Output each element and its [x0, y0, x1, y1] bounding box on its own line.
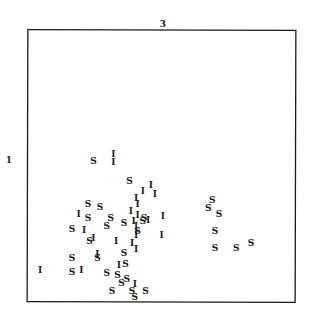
- data-point-s-16: S: [69, 267, 76, 277]
- data-point-i-24: I: [133, 279, 137, 289]
- data-point-s-29: S: [212, 226, 219, 236]
- data-point-i-16: I: [134, 230, 138, 240]
- top-axis-label: 3: [160, 19, 166, 29]
- data-point-s-8: S: [104, 221, 111, 231]
- data-point-i-15: I: [91, 233, 95, 243]
- data-point-s-12: S: [140, 216, 147, 226]
- data-point-i-8: I: [77, 209, 81, 219]
- data-point-s-4: S: [85, 213, 92, 223]
- data-point-s-27: S: [205, 203, 212, 213]
- scatter-chart: 3 1 SSSSSSSSSSSSSSSSSSSSSSSSSSSSSSSSSIII…: [0, 0, 310, 314]
- data-point-i-11: I: [135, 210, 139, 220]
- data-point-s-3: S: [97, 202, 104, 212]
- data-point-s-32: S: [248, 238, 255, 248]
- data-point-s-28: S: [216, 209, 223, 219]
- data-point-i-20: I: [134, 244, 138, 254]
- data-point-s-10: S: [121, 248, 128, 258]
- data-point-s-23: S: [109, 286, 116, 296]
- data-point-i-4: I: [153, 189, 157, 199]
- data-point-i-12: I: [146, 215, 150, 225]
- data-point-i-21: I: [117, 260, 121, 270]
- data-point-s-13: S: [69, 224, 76, 234]
- data-point-s-7: S: [121, 218, 128, 228]
- data-point-s-20: S: [104, 268, 111, 278]
- data-point-i-17: I: [159, 230, 163, 240]
- data-point-i-23: I: [38, 265, 42, 275]
- data-point-s-15: S: [69, 253, 76, 263]
- data-point-s-25: S: [132, 292, 139, 302]
- data-point-s-31: S: [233, 243, 240, 253]
- data-point-i-14: I: [82, 225, 86, 235]
- data-point-s-30: S: [212, 243, 219, 253]
- data-point-i-3: I: [141, 186, 145, 196]
- data-point-i-19: I: [95, 249, 99, 259]
- data-point-i-1: I: [111, 157, 115, 167]
- left-axis-label: 1: [6, 155, 12, 165]
- data-point-i-13: I: [161, 211, 165, 221]
- data-point-s-0: S: [90, 156, 97, 166]
- data-marks: SSSSSSSSSSSSSSSSSSSSSSSSSSSSSSSSSIIIIIII…: [38, 149, 254, 302]
- data-point-s-21: S: [124, 274, 131, 284]
- data-point-i-22: I: [79, 265, 83, 275]
- data-point-i-25: I: [114, 236, 118, 246]
- data-point-s-24: S: [142, 286, 149, 296]
- data-point-s-1: S: [126, 176, 133, 186]
- data-point-i-6: I: [135, 199, 139, 209]
- data-point-s-2: S: [85, 199, 92, 209]
- plot-frame: [27, 30, 296, 303]
- data-point-s-17: S: [122, 259, 129, 269]
